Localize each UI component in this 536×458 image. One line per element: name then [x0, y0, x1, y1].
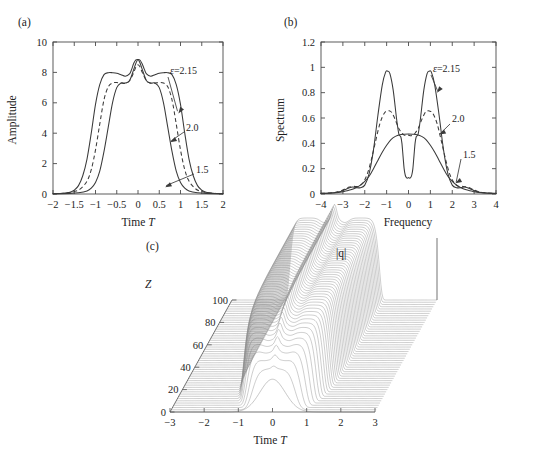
- panel-c-zaxis-title: Z: [145, 278, 152, 290]
- x-tick-label: 1: [178, 199, 183, 210]
- panel-b-spectrum-plot: (b) −4−3−2−101234 00.20.40.60.811.2 ε=2.…: [266, 0, 536, 238]
- surface-trace-41: [221, 224, 426, 320]
- panel-a-yaxis-title: Amplitude: [6, 95, 19, 144]
- surface-trace-37: [216, 233, 421, 329]
- panel-a-xaxis-title-text: Time: [121, 216, 148, 228]
- panel-a-tag: (a): [18, 16, 31, 29]
- surface-trace-22: [197, 268, 402, 363]
- surface-trace-25: [201, 261, 406, 356]
- annotation-label-0: ε=2.15: [170, 65, 197, 76]
- x-tick-label: 3: [472, 199, 477, 210]
- z-tick-label: 80: [205, 317, 216, 328]
- y-tick-label: 10: [37, 37, 48, 48]
- z-tick-label: 60: [193, 340, 204, 351]
- annotation-label-0: ε=2.15: [433, 63, 460, 74]
- x-tick-label: −4: [315, 199, 327, 210]
- panel-a-amplitude-plot: (a) −2−1.5−1−0.500.511.52 0246810 ε=2.15…: [0, 0, 268, 238]
- panel-c-tag: (c): [146, 240, 159, 253]
- annotation-arrowhead-1: [439, 129, 446, 134]
- y-tick-label: 0.2: [302, 163, 315, 174]
- surface-trace-26: [202, 258, 407, 353]
- x-tick-label: −3: [337, 199, 348, 210]
- time-tick-label: 3: [372, 417, 377, 428]
- y-tick-label: 2: [42, 158, 47, 169]
- y-tick-label: 0: [310, 189, 315, 200]
- series-curve-0: [321, 71, 496, 194]
- z-tick-label: 100: [212, 295, 228, 306]
- annotation-label-1: 2.0: [186, 122, 199, 133]
- annotation-arrowhead-2: [165, 182, 172, 187]
- surface-trace-38: [217, 231, 422, 327]
- panel-c-xaxis-title: Time T: [253, 434, 288, 446]
- annotation-label-2: 1.5: [196, 164, 209, 175]
- x-tick-label: 2: [220, 199, 225, 210]
- y-tick-label: 0.4: [302, 138, 316, 149]
- y-tick-label: 6: [42, 97, 47, 108]
- x-tick-label: 0.5: [153, 199, 166, 210]
- annotation-leader-2: [456, 159, 461, 182]
- y-tick-label: 8: [42, 67, 47, 78]
- surface-trace-34: [212, 240, 417, 336]
- panel-c-xaxis-title-text: Time: [253, 434, 280, 446]
- time-tick-label: 0: [270, 417, 275, 428]
- surface-trace-29: [206, 252, 411, 347]
- time-tick-label: −3: [164, 417, 175, 428]
- surface-trace-11: [184, 299, 389, 387]
- y-tick-label: 1: [310, 62, 315, 73]
- x-tick-label: 2: [450, 199, 455, 210]
- panel-b-yaxis-title: Spectrum: [274, 98, 287, 142]
- surface-trace-42: [222, 222, 427, 318]
- panel-c-surface-label: |q|: [336, 247, 346, 260]
- panel-c-svg: (c) 020406080100 −3−2−10123 Z |q| Time T: [118, 232, 418, 458]
- x-tick-label: 1.5: [195, 199, 208, 210]
- surface-trace-35: [213, 238, 418, 334]
- x-tick-label: −2: [47, 199, 58, 210]
- surface-trace-36: [215, 236, 420, 332]
- annotation-arrowhead-0: [437, 86, 443, 93]
- panel-b-xaxis-title: Frequency: [384, 216, 433, 229]
- annotation-arrowhead-0: [178, 107, 184, 114]
- annotation-value: =2.15: [174, 65, 197, 76]
- panel-b-tag: (b): [284, 16, 298, 29]
- x-tick-label: 0: [406, 199, 411, 210]
- surface-trace-32: [210, 245, 415, 341]
- y-tick-label: 0.6: [302, 113, 315, 124]
- time-tick-label: 2: [338, 417, 343, 428]
- x-tick-label: −2: [359, 199, 370, 210]
- surface-trace-24: [200, 263, 405, 358]
- surface-trace-30: [207, 249, 412, 345]
- annotation-value: =2.15: [437, 63, 460, 74]
- annotation-label-2: 1.5: [463, 149, 476, 160]
- x-tick-label: −0.5: [107, 199, 126, 210]
- surface-trace-28: [205, 254, 410, 349]
- series-curve-2: [321, 134, 496, 193]
- surface-trace-44: [225, 218, 430, 314]
- y-tick-label: 0: [42, 189, 47, 200]
- panel-a-xaxis-title-var: T: [148, 216, 156, 228]
- time-tick-label: −2: [199, 417, 210, 428]
- x-tick-label: −1.5: [65, 199, 84, 210]
- panel-b-svg: (b) −4−3−2−101234 00.20.40.60.811.2 ε=2.…: [266, 0, 536, 238]
- panel-c-waterfall-surface: (c) 020406080100 −3−2−10123 Z |q| Time T: [118, 232, 418, 458]
- panel-a-svg: (a) −2−1.5−1−0.500.511.52 0246810 ε=2.15…: [0, 0, 268, 238]
- z-tick-label: 40: [180, 362, 191, 373]
- y-tick-label: 0.8: [302, 87, 315, 98]
- annotation-label-1: 2.0: [452, 113, 465, 124]
- x-tick-label: 1: [428, 199, 433, 210]
- surface-trace-0: [170, 379, 375, 412]
- y-tick-label: 4: [42, 128, 48, 139]
- panel-c-xaxis-title-var: T: [280, 434, 288, 446]
- z-tick-label: 20: [168, 384, 179, 395]
- surface-trace-39: [218, 229, 423, 325]
- time-tick-label: −1: [233, 417, 244, 428]
- annotation-leader-0: [431, 75, 438, 91]
- surface-trace-33: [211, 242, 416, 338]
- time-tick-label: 1: [304, 417, 309, 428]
- x-tick-label: −1: [381, 199, 392, 210]
- surface-trace-40: [220, 227, 425, 323]
- y-tick-label: 1.2: [302, 37, 315, 48]
- surface-trace-43: [223, 220, 428, 316]
- x-tick-label: −1: [90, 199, 101, 210]
- x-tick-label: 4: [493, 199, 499, 210]
- x-tick-label: 0: [135, 199, 140, 210]
